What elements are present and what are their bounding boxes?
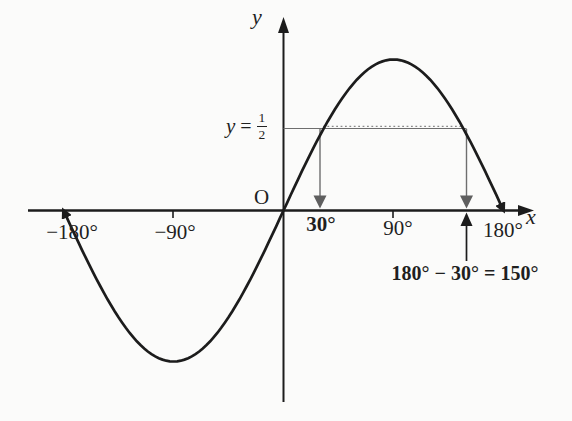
origin-label: O [254,185,269,210]
fraction-numerator: 1 [257,110,268,127]
tick-label-180: 180° [477,218,529,243]
fraction-denominator: 2 [259,127,266,143]
y-axis-label: y [252,4,262,30]
solution-guide-arrowhead-150-icon [460,196,473,209]
tick-label-neg180: −180° [38,220,106,245]
half-value-label: y = 1 2 [226,104,267,148]
half-value-y: y [226,114,235,139]
tick-label-neg90: −90° [146,220,204,245]
solution-annotation: 180° − 30° = 150° [375,262,555,285]
y-axis-arrow-icon [278,17,289,33]
solution-guide-arrowhead-30-icon [314,196,327,209]
half-value-equals: = [240,115,251,138]
solution-label-30: 30° [297,212,345,237]
one-half-fraction: 1 2 [257,110,268,142]
annotation-arrowhead-icon [461,213,473,227]
sine-graph-figure: y x O y = 1 2 −180° −90° 30° 90° 180° 18… [0,0,572,421]
graph-canvas [0,0,572,421]
tick-label-90: 90° [376,216,420,241]
